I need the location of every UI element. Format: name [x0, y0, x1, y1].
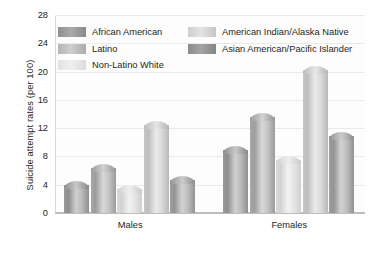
bar-top-ellipse — [329, 132, 354, 140]
y-axis-title: Suicide attempt rates (per 100) — [25, 25, 35, 225]
bar-top-ellipse — [144, 121, 169, 129]
legend-label: Asian American/Pacific Islander — [222, 44, 352, 54]
legend-item-latino: Latino — [58, 44, 188, 54]
bar-top-ellipse — [223, 146, 248, 154]
bar — [276, 156, 301, 213]
legend-label: American Indian/Alaska Native — [222, 27, 349, 37]
bar — [117, 185, 142, 213]
bar-body — [250, 117, 275, 213]
x-axis-tick-label: Males — [64, 220, 197, 230]
bar-body — [276, 160, 301, 213]
legend-item-african-american: African American — [58, 27, 188, 37]
bar-body — [223, 150, 248, 213]
y-axis-tick-label: 24 — [38, 38, 48, 48]
y-axis-tick-label: 8 — [43, 151, 48, 161]
legend-swatch-icon — [58, 27, 86, 37]
bar-top-ellipse — [250, 113, 275, 121]
bar-body — [303, 70, 328, 213]
bar — [91, 164, 116, 214]
bar — [170, 176, 195, 213]
x-axis-tick-label: Females — [223, 220, 356, 230]
legend-swatch-icon — [188, 44, 216, 54]
bar-top-ellipse — [91, 164, 116, 172]
bar-body — [64, 185, 89, 213]
bar-top-ellipse — [170, 176, 195, 184]
bar-body — [170, 180, 195, 213]
gridline — [55, 213, 365, 214]
bar — [223, 146, 248, 213]
y-axis-tick-label: 0 — [43, 208, 48, 218]
y-axis-tick-label: 28 — [38, 10, 48, 20]
legend-item-american-indian-alaska-native: American Indian/Alaska Native — [188, 27, 352, 37]
legend-swatch-icon — [58, 44, 86, 54]
legend-swatch-icon — [58, 60, 86, 70]
bar-body — [91, 168, 116, 214]
legend-label: African American — [92, 27, 162, 37]
legend-item-non-latino-white: Non-Latino White — [58, 60, 188, 70]
legend-swatch-icon — [188, 27, 216, 37]
legend-item-asian-american-pacific-islander: Asian American/Pacific Islander — [188, 44, 352, 54]
y-axis-tick-label: 20 — [38, 67, 48, 77]
bar — [64, 181, 89, 213]
legend-label: Latino — [92, 44, 117, 54]
y-axis-tick-label: 4 — [43, 180, 48, 190]
bar-body — [329, 136, 354, 213]
bar-body — [144, 125, 169, 213]
legend-column-right: American Indian/Alaska Native Asian Amer… — [188, 27, 352, 70]
bar-top-ellipse — [276, 156, 301, 164]
legend-column-left: African American Latino Non-Latino White — [58, 27, 188, 70]
bar — [250, 113, 275, 213]
bar — [329, 132, 354, 213]
bar — [303, 66, 328, 213]
chart-container: Suicide attempt rates (per 100) 04812162… — [0, 0, 371, 257]
chart-legend: African American Latino Non-Latino White… — [58, 27, 364, 70]
bar-top-ellipse — [64, 181, 89, 189]
bar — [144, 121, 169, 213]
legend-label: Non-Latino White — [92, 60, 164, 70]
y-axis-tick-label: 12 — [38, 123, 48, 133]
y-axis-tick-label: 16 — [38, 95, 48, 105]
bar-top-ellipse — [117, 185, 142, 193]
